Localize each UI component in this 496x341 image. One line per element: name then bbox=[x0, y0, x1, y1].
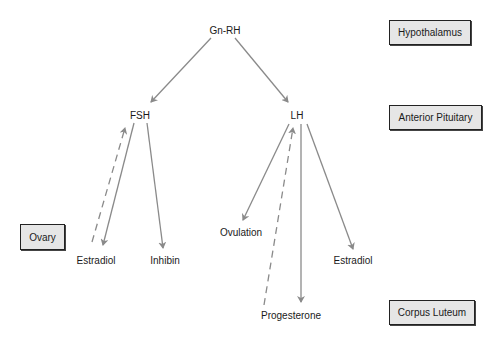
node-gnrh: Gn-RH bbox=[209, 26, 240, 36]
node-inhibin: Inhibin bbox=[150, 256, 179, 266]
arrow-fsh-to-estradiol bbox=[103, 123, 134, 245]
arrow-lh-to-estradiol bbox=[307, 124, 353, 249]
node-estradiol-lh: Estradiol bbox=[334, 256, 373, 266]
node-lh: LH bbox=[291, 111, 304, 121]
node-fsh: FSH bbox=[130, 111, 150, 121]
arrows-layer bbox=[0, 0, 496, 341]
level-box-hypothalamus: Hypothalamus bbox=[389, 20, 471, 45]
arrow-progesterone-feedback-to-lh bbox=[264, 128, 293, 305]
node-estradiol-ovary: Estradiol bbox=[77, 256, 116, 266]
arrow-gnrh-to-lh bbox=[235, 38, 288, 102]
level-box-anterior-pituitary: Anterior Pituitary bbox=[389, 105, 482, 130]
node-progesterone: Progesterone bbox=[261, 311, 321, 321]
arrow-lh-to-ovulation bbox=[243, 124, 289, 220]
arrow-gnrh-to-fsh bbox=[151, 38, 211, 102]
level-box-corpus-luteum: Corpus Luteum bbox=[389, 300, 475, 325]
level-box-ovary: Ovary bbox=[20, 224, 65, 250]
arrow-fsh-to-inhibin bbox=[147, 123, 163, 248]
hormone-regulation-diagram: Gn-RH FSH LH Estradiol Inhibin Ovulation… bbox=[0, 0, 496, 341]
node-ovulation: Ovulation bbox=[220, 228, 262, 238]
